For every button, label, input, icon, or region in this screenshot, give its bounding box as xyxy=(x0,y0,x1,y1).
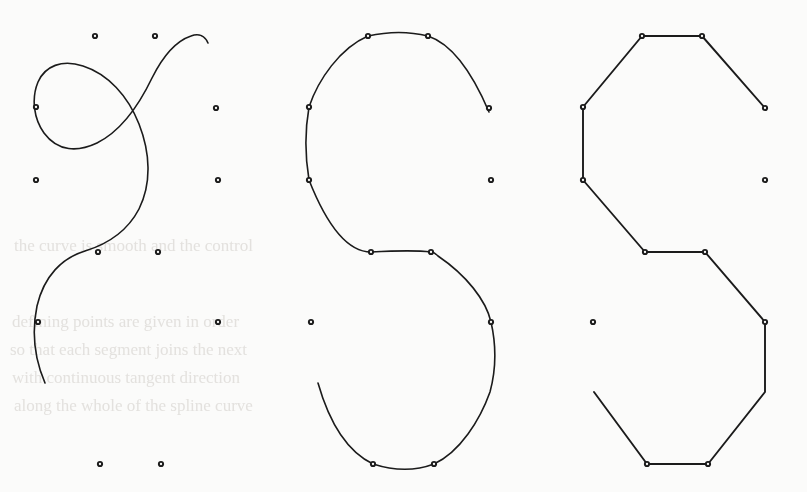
control-polygon-control-points xyxy=(580,33,768,467)
control-point-marker-center xyxy=(35,106,37,108)
control-point-marker-center xyxy=(154,35,156,37)
control-point-marker-center xyxy=(367,35,369,37)
control-point-marker-center xyxy=(592,321,594,323)
panel-group-tight-spline xyxy=(306,33,495,470)
control-point-marker-center xyxy=(644,251,646,253)
control-point-marker-center xyxy=(427,35,429,37)
control-point-marker-center xyxy=(701,35,703,37)
control-point-marker-center xyxy=(372,463,374,465)
control-point-marker-center xyxy=(430,251,432,253)
loose-spline-control-points xyxy=(33,33,221,467)
control-point-marker-center xyxy=(641,35,643,37)
control-point-marker-center xyxy=(582,179,584,181)
figure-page: the curve is smooth and the controldefin… xyxy=(0,0,807,492)
tight-spline-control-points xyxy=(306,33,494,467)
control-point-marker-center xyxy=(157,251,159,253)
control-point-marker-center xyxy=(582,106,584,108)
control-point-marker-center xyxy=(160,463,162,465)
control-point-marker-center xyxy=(215,107,217,109)
control-point-marker-center xyxy=(764,107,766,109)
control-point-marker-center xyxy=(37,321,39,323)
control-point-marker-center xyxy=(35,179,37,181)
control-point-marker-center xyxy=(99,463,101,465)
control-point-marker-center xyxy=(308,106,310,108)
control-point-marker-center xyxy=(370,251,372,253)
loose-spline-curve xyxy=(34,35,208,383)
control-point-marker-center xyxy=(764,321,766,323)
control-point-marker-center xyxy=(646,463,648,465)
control-polygon-polyline xyxy=(583,36,765,464)
control-point-marker-center xyxy=(308,179,310,181)
control-point-marker-center xyxy=(310,321,312,323)
control-point-marker-center xyxy=(94,35,96,37)
control-point-marker-center xyxy=(704,251,706,253)
panel-group-control-polygon xyxy=(580,33,768,467)
control-point-marker-center xyxy=(764,179,766,181)
control-point-marker-center xyxy=(433,463,435,465)
spline-comparison-figure xyxy=(0,0,807,492)
panel-group-loose-spline xyxy=(33,33,221,467)
control-point-marker-center xyxy=(490,321,492,323)
tight-spline-curve xyxy=(306,33,495,470)
control-point-marker-center xyxy=(490,179,492,181)
control-point-marker-center xyxy=(217,321,219,323)
control-point-marker-center xyxy=(488,107,490,109)
control-point-marker-center xyxy=(97,251,99,253)
control-point-marker-center xyxy=(707,463,709,465)
control-point-marker-center xyxy=(217,179,219,181)
